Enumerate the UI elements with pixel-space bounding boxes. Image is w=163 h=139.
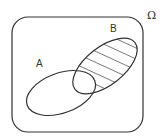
universe-label: Ω	[147, 9, 156, 22]
set-b-label: B	[110, 23, 117, 34]
venn-diagram: A B Ω	[0, 0, 163, 139]
set-b-ellipse	[63, 28, 146, 105]
hatched-region-b-minus-a	[60, 2, 160, 114]
set-a-label: A	[36, 58, 43, 69]
